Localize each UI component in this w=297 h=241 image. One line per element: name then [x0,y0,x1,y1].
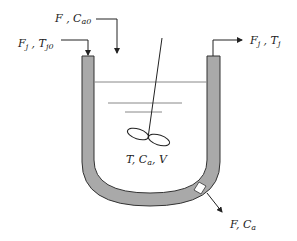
jacket-outlet-label: Fj , Tj [249,34,281,48]
feed-label: F , Ca0 [54,12,91,26]
reactor-state-label: T, Ca, V [126,153,168,167]
impeller-icon [126,126,171,148]
agitator-shaft [148,38,162,138]
cstr-diagram: F , Ca0 Fj , Tj0 Fj , Tj T, Ca, V F, Ca [0,0,297,241]
outlet-label: F, Ca [229,218,256,232]
outlet-arrow [207,193,222,212]
jacket-inlet-arrow [61,40,88,55]
feed-arrow [96,19,117,53]
jacket-inlet-label: Fj , Tj0 [17,37,54,51]
jacket-outlet-arrow [213,40,242,56]
